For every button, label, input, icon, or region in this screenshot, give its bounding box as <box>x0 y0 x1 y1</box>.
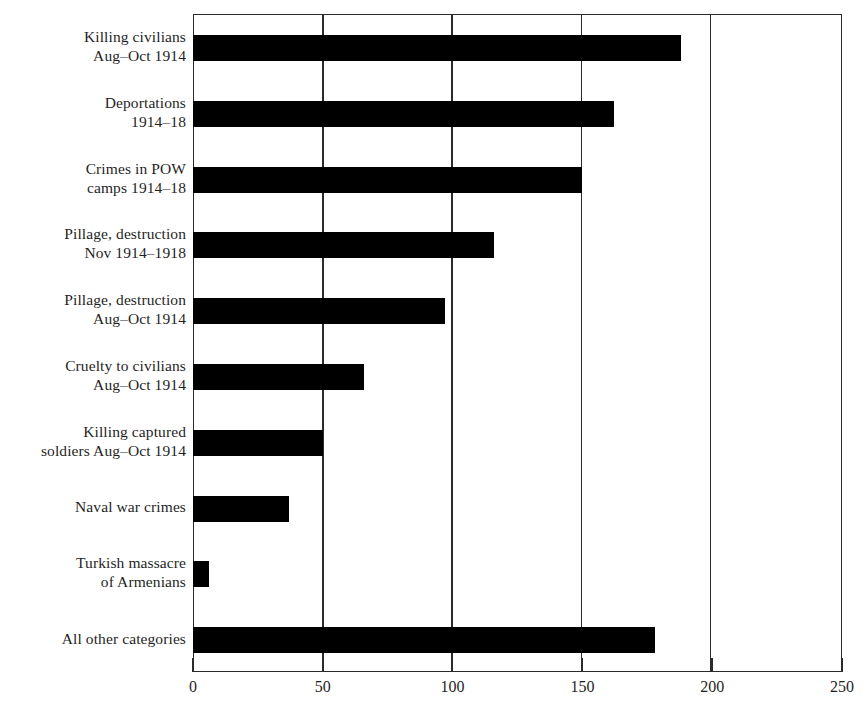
x-tick-label: 100 <box>441 678 465 696</box>
category-label-line1: Naval war crimes <box>75 498 186 515</box>
x-tick-mark <box>452 658 454 672</box>
category-label: Cruelty to civiliansAug–Oct 1914 <box>0 356 186 394</box>
category-labels: Killing civiliansAug–Oct 1914Deportation… <box>0 14 186 672</box>
bar-row <box>193 606 842 672</box>
category-label-line2: Aug–Oct 1914 <box>0 375 186 394</box>
bar-row <box>193 277 842 343</box>
bar <box>193 232 494 258</box>
category-label-line1: All other categories <box>62 630 186 647</box>
category-label: Pillage, destructionAug–Oct 1914 <box>0 290 186 328</box>
x-tick-label: 0 <box>189 678 197 696</box>
bar <box>193 101 614 127</box>
category-label-line1: Cruelty to civilians <box>65 357 186 374</box>
category-label: Pillage, destructionNov 1914–1918 <box>0 224 186 262</box>
x-tick-label: 200 <box>700 678 724 696</box>
x-axis: 050100150200250 <box>193 672 842 711</box>
category-label-line2: of Armenians <box>0 572 186 591</box>
category-label-line2: Nov 1914–1918 <box>0 243 186 262</box>
category-label-line1: Pillage, destruction <box>64 291 186 308</box>
category-label-line2: Aug–Oct 1914 <box>0 46 186 65</box>
x-tick-label: 250 <box>830 678 854 696</box>
bar-row <box>193 14 842 80</box>
category-label: Deportations1914–18 <box>0 93 186 131</box>
bars-layer <box>193 14 842 672</box>
bar-row <box>193 475 842 541</box>
bar-row <box>193 211 842 277</box>
category-label: Killing capturedsoldiers Aug–Oct 1914 <box>0 422 186 460</box>
x-tick-mark <box>841 658 843 672</box>
bar <box>193 430 323 456</box>
category-label: Naval war crimes <box>0 497 186 516</box>
category-label-line1: Turkish massacre <box>76 554 186 571</box>
category-label-line2: soldiers Aug–Oct 1914 <box>0 441 186 460</box>
category-label-line1: Killing captured <box>83 423 186 440</box>
x-tick-mark <box>322 658 324 672</box>
category-label-line1: Crimes in POW <box>86 160 186 177</box>
category-label: Killing civiliansAug–Oct 1914 <box>0 27 186 65</box>
category-label: All other categories <box>0 629 186 648</box>
x-tick-mark <box>582 658 584 672</box>
category-label-line2: camps 1914–18 <box>0 178 186 197</box>
bar-row <box>193 80 842 146</box>
category-label-line1: Pillage, destruction <box>64 225 186 242</box>
bar-row <box>193 540 842 606</box>
category-label-line2: Aug–Oct 1914 <box>0 309 186 328</box>
bar <box>193 298 445 324</box>
bar-row <box>193 409 842 475</box>
bar <box>193 496 289 522</box>
bar <box>193 167 582 193</box>
category-label: Turkish massacreof Armenians <box>0 553 186 591</box>
x-tick-label: 50 <box>315 678 331 696</box>
bar <box>193 35 681 61</box>
category-label-line2: 1914–18 <box>0 112 186 131</box>
bar <box>193 627 655 653</box>
x-tick-label: 150 <box>570 678 594 696</box>
x-tick-mark <box>192 658 194 672</box>
bar-row <box>193 343 842 409</box>
category-label-line1: Killing civilians <box>84 28 186 45</box>
x-tick-mark <box>711 658 713 672</box>
bar-row <box>193 146 842 212</box>
bar <box>193 364 364 390</box>
bar <box>193 561 209 587</box>
category-label-line1: Deportations <box>105 94 186 111</box>
bar-chart: Killing civiliansAug–Oct 1914Deportation… <box>0 0 868 711</box>
category-label: Crimes in POWcamps 1914–18 <box>0 159 186 197</box>
